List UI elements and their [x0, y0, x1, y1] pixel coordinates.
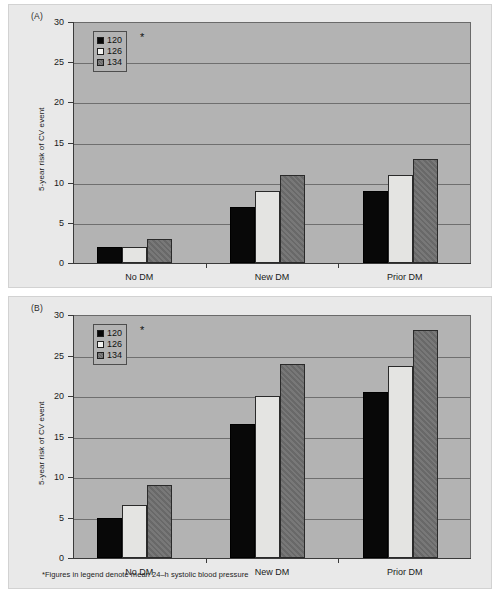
y-axis-tick: [68, 356, 73, 357]
bar: [255, 191, 280, 263]
x-axis-line: [73, 558, 471, 559]
y-axis-tick: [68, 22, 73, 23]
legend-asterisk: *: [140, 325, 144, 336]
bar: [147, 485, 172, 558]
bar: [122, 505, 147, 558]
bar: [388, 366, 413, 558]
plot-background: [73, 315, 471, 558]
panel-a-plot-area: 5-year risk of CV event051015202530No DM…: [9, 5, 491, 287]
legend-swatch-icon: [97, 48, 104, 55]
y-axis-tick: [68, 143, 73, 144]
x-axis-label: Prior DM: [387, 272, 423, 282]
y-axis-tick: [68, 437, 73, 438]
bar: [413, 159, 438, 263]
y-axis-tick: [68, 518, 73, 519]
footnote: *Figures in legend denote mean 24–h syst…: [42, 570, 248, 579]
legend-swatch-icon: [97, 59, 104, 66]
x-axis-label: Prior DM: [387, 567, 423, 577]
y-axis-tick: [68, 183, 73, 184]
y-axis-label: 10: [42, 472, 64, 482]
bar: [363, 392, 388, 558]
x-axis-line: [73, 263, 471, 264]
x-axis-tick: [338, 558, 339, 563]
legend: 120126134: [93, 324, 127, 365]
y-axis-label: 15: [42, 432, 64, 442]
y-axis-tick: [68, 62, 73, 63]
gridline: [73, 103, 470, 104]
bar: [413, 330, 438, 558]
bar: [255, 396, 280, 558]
legend-item: 134: [97, 350, 122, 361]
y-axis-tick: [68, 396, 73, 397]
legend-item: 134: [97, 57, 122, 68]
y-axis-tick: [68, 315, 73, 316]
x-axis-tick: [338, 263, 339, 268]
x-axis-label: New DM: [255, 567, 290, 577]
x-axis-label: New DM: [255, 272, 290, 282]
y-axis-label: 25: [42, 351, 64, 361]
bar: [363, 191, 388, 263]
y-axis-label: 0: [42, 553, 64, 563]
x-axis-label: No DM: [125, 272, 153, 282]
x-axis-tick: [206, 558, 207, 563]
panel-a: (A) 5-year risk of CV event051015202530N…: [8, 4, 492, 288]
bar: [280, 175, 305, 263]
legend-item: 120: [97, 35, 122, 46]
legend-item: 126: [97, 46, 122, 57]
legend: 120126134: [93, 31, 127, 72]
bar: [122, 247, 147, 263]
y-axis-label: 30: [42, 310, 64, 320]
legend-item-label: 134: [107, 57, 122, 68]
gridline: [73, 144, 470, 145]
legend-item: 120: [97, 328, 122, 339]
gridline: [73, 63, 470, 64]
legend-item-label: 120: [107, 35, 122, 46]
y-axis-label: 20: [42, 391, 64, 401]
bar: [280, 364, 305, 558]
plot-background: [73, 22, 471, 263]
legend-swatch-icon: [97, 37, 104, 44]
gridline: [73, 357, 470, 358]
y-axis-label: 5: [42, 513, 64, 523]
figure-root: (A) 5-year risk of CV event051015202530N…: [0, 0, 500, 593]
y-axis-label: 15: [42, 138, 64, 148]
legend-item-label: 120: [107, 328, 122, 339]
bar: [230, 207, 255, 263]
legend-item-label: 126: [107, 46, 122, 57]
legend-item-label: 134: [107, 350, 122, 361]
y-axis-tick: [68, 223, 73, 224]
legend-swatch-icon: [97, 330, 104, 337]
y-axis-label: 10: [42, 178, 64, 188]
legend-item: 126: [97, 339, 122, 350]
panel-b-plot-area: 5-year risk of CV event051015202530No DM…: [9, 297, 491, 588]
bar: [147, 239, 172, 263]
bar: [97, 247, 122, 263]
y-axis-line: [73, 22, 74, 263]
legend-item-label: 126: [107, 339, 122, 350]
legend-swatch-icon: [97, 352, 104, 359]
y-axis-label: 30: [42, 17, 64, 27]
y-axis-tick: [68, 477, 73, 478]
panel-b: (B) 5-year risk of CV event051015202530N…: [8, 296, 492, 589]
legend-swatch-icon: [97, 341, 104, 348]
y-axis-label: 25: [42, 57, 64, 67]
y-axis-line: [73, 315, 74, 558]
bar: [97, 518, 122, 559]
y-axis-label: 0: [42, 258, 64, 268]
bar: [230, 424, 255, 558]
y-axis-label: 5: [42, 218, 64, 228]
y-axis-tick: [68, 102, 73, 103]
x-axis-tick: [206, 263, 207, 268]
legend-asterisk: *: [140, 32, 144, 43]
y-axis-label: 20: [42, 97, 64, 107]
bar: [388, 175, 413, 263]
